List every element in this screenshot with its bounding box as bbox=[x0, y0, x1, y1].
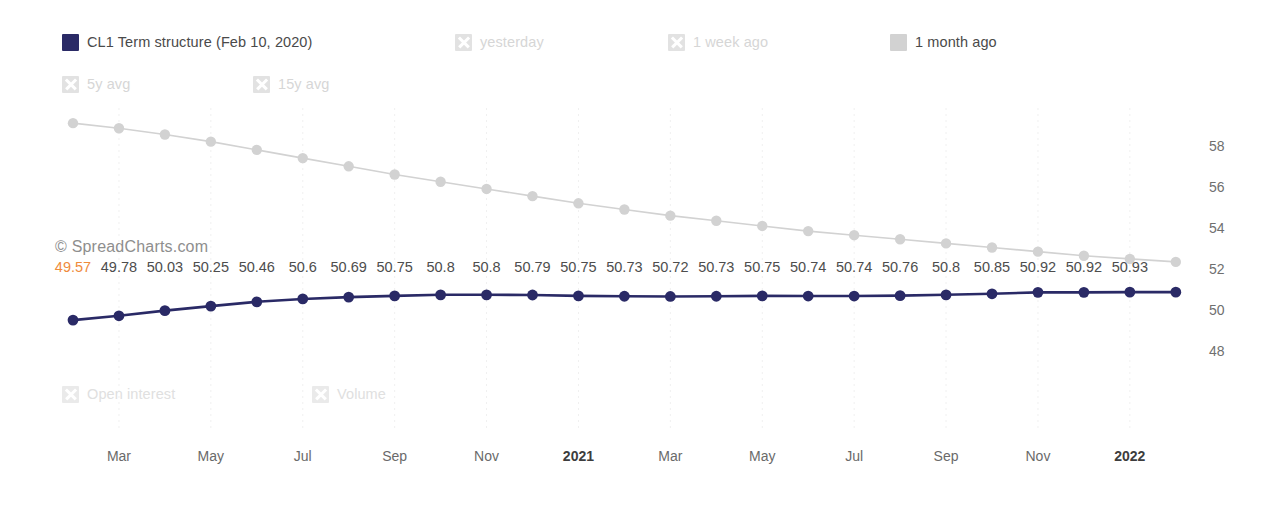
series-cl1-term-structure bbox=[68, 287, 1182, 326]
disabled-checkbox-icon bbox=[668, 34, 685, 51]
data-point-label: 50.76 bbox=[882, 259, 918, 275]
data-point-label: 50.8 bbox=[426, 259, 454, 275]
legend-volume[interactable]: Volume bbox=[312, 382, 386, 406]
legend-15y-avg-label: 15y avg bbox=[278, 76, 330, 92]
disabled-checkbox-icon bbox=[62, 386, 79, 403]
x-axis-tick-label: May bbox=[749, 448, 775, 464]
legend-1-week-ago[interactable]: 1 week ago bbox=[668, 30, 768, 54]
y-axis-tick-label: 58 bbox=[1209, 138, 1225, 154]
legend-row-primary: CL1 Term structure (Feb 10, 2020) yester… bbox=[0, 30, 1280, 54]
data-point-label: 49.78 bbox=[101, 259, 137, 275]
disabled-checkbox-icon bbox=[62, 76, 79, 93]
legend-row-averages: 5y avg 15y avg bbox=[0, 72, 1280, 96]
term-structure-chart: CL1 Term structure (Feb 10, 2020) yester… bbox=[0, 0, 1280, 507]
series-1-month-ago bbox=[68, 118, 1181, 267]
y-axis-tick-label: 50 bbox=[1209, 302, 1225, 318]
data-point-label: 50.6 bbox=[289, 259, 317, 275]
data-point-label: 50.93 bbox=[1112, 259, 1148, 275]
legend-1-month-ago-label: 1 month ago bbox=[915, 34, 997, 50]
legend-5y-avg[interactable]: 5y avg bbox=[62, 72, 130, 96]
x-axis-tick-label: 2021 bbox=[563, 448, 594, 464]
y-axis-tick-label: 54 bbox=[1209, 220, 1225, 236]
x-axis-tick-label: Jul bbox=[294, 448, 312, 464]
y-axis-tick-label: 52 bbox=[1209, 261, 1225, 277]
data-point-label: 50.74 bbox=[836, 259, 872, 275]
legend-1-week-ago-label: 1 week ago bbox=[693, 34, 768, 50]
legend-color-swatch-icon bbox=[890, 34, 907, 51]
data-point-label: 50.92 bbox=[1020, 259, 1056, 275]
legend-5y-avg-label: 5y avg bbox=[87, 76, 130, 92]
data-point-label: 50.73 bbox=[698, 259, 734, 275]
data-point-label: 50.03 bbox=[147, 259, 183, 275]
data-point-label: 50.79 bbox=[514, 259, 550, 275]
legend-yesterday-label: yesterday bbox=[480, 34, 544, 50]
data-point-label: 50.25 bbox=[193, 259, 229, 275]
data-point-label: 50.75 bbox=[744, 259, 780, 275]
x-axis-tick-label: 2022 bbox=[1114, 448, 1145, 464]
data-point-label: 50.92 bbox=[1066, 259, 1102, 275]
disabled-checkbox-icon bbox=[312, 386, 329, 403]
x-axis-tick-label: Nov bbox=[474, 448, 499, 464]
legend-cl1-term-structure-label: CL1 Term structure (Feb 10, 2020) bbox=[87, 34, 312, 50]
legend-open-interest-label: Open interest bbox=[87, 386, 175, 402]
data-point-label: 50.74 bbox=[790, 259, 826, 275]
legend-row-secondary: Open interest Volume bbox=[0, 382, 1280, 406]
x-axis-tick-label: Sep bbox=[382, 448, 407, 464]
disabled-checkbox-icon bbox=[253, 76, 270, 93]
data-point-label: 50.8 bbox=[932, 259, 960, 275]
data-point-label: 50.73 bbox=[606, 259, 642, 275]
x-axis-tick-label: May bbox=[198, 448, 224, 464]
data-point-label: 50.69 bbox=[331, 259, 367, 275]
y-axis-tick-label: 48 bbox=[1209, 343, 1225, 359]
legend-volume-label: Volume bbox=[337, 386, 386, 402]
legend-open-interest[interactable]: Open interest bbox=[62, 382, 175, 406]
data-point-label: 49.57 bbox=[55, 259, 91, 275]
legend-color-swatch-icon bbox=[62, 34, 79, 51]
legend-1-month-ago[interactable]: 1 month ago bbox=[890, 30, 997, 54]
x-axis-tick-label: Mar bbox=[107, 448, 131, 464]
watermark: © SpreadCharts.com bbox=[55, 238, 208, 256]
legend-yesterday[interactable]: yesterday bbox=[455, 30, 544, 54]
data-point-label: 50.72 bbox=[652, 259, 688, 275]
data-point-label: 50.8 bbox=[472, 259, 500, 275]
data-point-label: 50.85 bbox=[974, 259, 1010, 275]
data-point-label: 50.46 bbox=[239, 259, 275, 275]
x-axis-tick-label: Jul bbox=[845, 448, 863, 464]
x-axis-tick-label: Mar bbox=[658, 448, 682, 464]
data-point-label: 50.75 bbox=[560, 259, 596, 275]
legend-15y-avg[interactable]: 15y avg bbox=[253, 72, 330, 96]
x-axis-tick-label: Sep bbox=[934, 448, 959, 464]
data-point-label: 50.75 bbox=[376, 259, 412, 275]
x-axis-tick-label: Nov bbox=[1025, 448, 1050, 464]
legend-cl1-term-structure[interactable]: CL1 Term structure (Feb 10, 2020) bbox=[62, 30, 312, 54]
disabled-checkbox-icon bbox=[455, 34, 472, 51]
y-axis-tick-label: 56 bbox=[1209, 179, 1225, 195]
